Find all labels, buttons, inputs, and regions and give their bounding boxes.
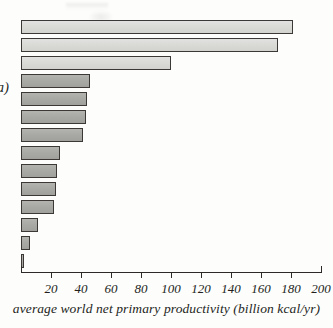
bar [21, 110, 86, 124]
bar [21, 128, 83, 142]
bar [21, 38, 278, 52]
scan-artifact [66, 3, 108, 10]
x-axis-tick [201, 272, 202, 278]
bar [21, 164, 57, 178]
x-axis-tick [111, 272, 112, 278]
x-axis-tick-label: 60 [105, 281, 118, 297]
plot-area [21, 20, 321, 272]
x-axis-tick [321, 266, 322, 273]
x-axis-tick-label: 80 [135, 281, 148, 297]
bar [21, 200, 54, 214]
x-axis-tick [141, 272, 142, 278]
x-axis-tick [261, 272, 262, 278]
x-axis-title: average world net primary productivity (… [0, 301, 333, 317]
x-axis-tick [291, 272, 292, 278]
bar [21, 92, 87, 106]
panel-label: a) [0, 80, 9, 96]
x-axis-tick-label: 20 [45, 281, 58, 297]
bar [21, 74, 90, 88]
bar [21, 56, 171, 70]
bar-chart-figure: a) 20406080100120140160180200 average wo… [0, 0, 333, 328]
bar [21, 146, 60, 160]
bar [21, 20, 293, 34]
x-axis-tick [81, 272, 82, 278]
x-axis-tick [51, 272, 52, 278]
x-axis-tick-label: 40 [75, 281, 88, 297]
x-axis-tick-label: 120 [191, 281, 211, 297]
bar [21, 236, 30, 250]
x-axis-tick-label: 160 [251, 281, 271, 297]
x-axis-tick-label: 140 [221, 281, 241, 297]
x-axis-tick [171, 272, 172, 278]
x-axis-tick-origin [21, 266, 22, 273]
x-axis-tick [231, 272, 232, 278]
x-axis-tick-label: 100 [161, 281, 181, 297]
bar [21, 218, 38, 232]
x-axis-tick-label: 180 [281, 281, 301, 297]
x-axis-tick-label: 200 [311, 281, 331, 297]
bar [21, 182, 56, 196]
